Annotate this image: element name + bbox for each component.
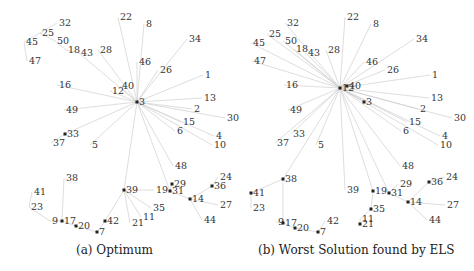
node-label: 45	[253, 37, 265, 48]
node-label: 30	[227, 112, 239, 123]
node-label: 2	[420, 103, 426, 114]
node-label: 18	[68, 44, 80, 55]
node-label: 32	[59, 17, 71, 28]
node-label: 8	[146, 18, 152, 29]
edge	[79, 53, 137, 102]
node-label: 28	[100, 44, 112, 55]
node-label: 42	[327, 215, 339, 226]
node-label: 13	[431, 92, 443, 103]
node-label: 1	[205, 69, 211, 80]
node-label: 16	[286, 79, 298, 90]
node-label: 28	[328, 44, 340, 55]
node-label: 47	[29, 55, 41, 66]
node-label: 50	[285, 35, 297, 46]
node-label: 40	[122, 80, 134, 91]
node-label: 26	[160, 64, 172, 75]
node-label: 8	[373, 18, 379, 29]
caption-b: (b) Worst Solution found by ELS	[258, 243, 454, 257]
edge	[340, 88, 345, 190]
node-label: 18	[296, 43, 308, 54]
node-label: 23	[253, 202, 265, 213]
node-label: 39	[347, 184, 359, 195]
node-label: 5	[92, 139, 98, 150]
node-label: 27	[220, 199, 232, 210]
edge	[340, 88, 401, 131]
graph-b: 1234567891011121314151617181920212223242…	[250, 11, 467, 237]
node-label: 30	[454, 112, 466, 123]
node-label: 49	[66, 104, 78, 115]
node-label: 10	[214, 139, 226, 150]
node-label: 3	[139, 96, 145, 107]
node-label: 19	[375, 185, 387, 196]
node-label: 35	[373, 203, 385, 214]
edge	[137, 102, 170, 191]
node-label: 13	[204, 92, 216, 103]
node-label: 5	[318, 139, 324, 150]
node-label: 21	[362, 218, 374, 229]
node-label: 15	[183, 116, 195, 127]
node-label: 2	[194, 103, 200, 114]
node-label: 46	[139, 56, 151, 67]
node-label: 14	[192, 193, 204, 204]
caption-a: (a) Optimum	[76, 243, 153, 257]
node-label: 9	[52, 215, 58, 226]
node-label: 40	[349, 80, 361, 91]
edge	[340, 88, 438, 145]
node-label: 49	[290, 104, 302, 115]
node-label: 47	[254, 55, 266, 66]
node-label: 48	[175, 160, 187, 171]
node-label: 50	[57, 35, 69, 46]
node-label: 38	[285, 173, 297, 184]
node-label: 31	[172, 185, 184, 196]
node-label: 33	[67, 128, 79, 139]
node-label: 31	[391, 187, 403, 198]
node-label: 20	[78, 220, 90, 231]
edge	[137, 102, 225, 118]
node-label: 32	[287, 17, 299, 28]
node-label: 45	[26, 36, 38, 47]
node-label: 36	[431, 176, 443, 187]
node-label: 1	[432, 69, 438, 80]
node-label: 41	[253, 187, 265, 198]
graph-a: 1234567891011121314151617181920212223242…	[24, 11, 239, 237]
node-label: 36	[214, 180, 226, 191]
node-label: 44	[429, 214, 441, 225]
node-label: 15	[409, 116, 421, 127]
node-label: 39	[126, 184, 138, 195]
edge	[340, 17, 345, 88]
node-label: 27	[447, 199, 459, 210]
node-label: 22	[120, 11, 132, 22]
edge	[275, 88, 340, 143]
node-label: 17	[64, 215, 76, 226]
node-label: 24	[446, 171, 458, 182]
node-label: 38	[66, 172, 78, 183]
node-label: 23	[31, 201, 43, 212]
node-label: 7	[320, 226, 326, 237]
node-label: 34	[189, 33, 201, 44]
node-label: 17	[285, 217, 297, 228]
node-label: 25	[42, 27, 54, 38]
node-label: 14	[410, 196, 422, 207]
tree-diagrams: 1234567891011121314151617181920212223242…	[0, 0, 474, 271]
edge	[137, 102, 212, 145]
node-label: 37	[53, 137, 65, 148]
edge	[124, 102, 137, 190]
node-label: 21	[132, 217, 144, 228]
node-label: 35	[153, 202, 165, 213]
node-label: 34	[416, 33, 428, 44]
node-label: 42	[107, 215, 119, 226]
edge	[137, 75, 203, 102]
edge	[340, 88, 389, 193]
node-label: 3	[366, 96, 372, 107]
node-label: 26	[387, 64, 399, 75]
node-label: 16	[59, 79, 71, 90]
node-label: 41	[34, 186, 46, 197]
node-label: 44	[204, 214, 216, 225]
node-label: 46	[366, 56, 378, 67]
node-label: 43	[81, 47, 93, 58]
node-label: 19	[156, 184, 168, 195]
node-label: 10	[440, 139, 452, 150]
node-label: 43	[308, 47, 320, 58]
node-label: 7	[99, 226, 105, 237]
node-label: 22	[347, 11, 359, 22]
